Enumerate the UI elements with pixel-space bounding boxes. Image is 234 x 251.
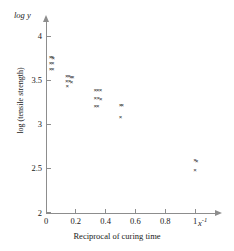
data-point-marker [118, 115, 123, 120]
data-point-marker [69, 80, 74, 85]
y-axis-title: log (tensile strength) [16, 41, 25, 161]
data-point-marker [98, 97, 103, 102]
data-point-marker [98, 88, 103, 93]
data-point-marker [50, 67, 55, 72]
scatter-plot-figure: log y x-1 22.533.5400.20.40.60.81 log (t… [0, 0, 234, 251]
data-points-layer [0, 0, 234, 251]
data-point-marker [193, 168, 198, 173]
data-point-marker [95, 104, 100, 109]
x-axis-title: Reciprocal of curing time [0, 231, 234, 241]
data-point-marker [120, 103, 125, 108]
data-point-marker [194, 159, 199, 164]
data-point-marker [65, 84, 70, 89]
